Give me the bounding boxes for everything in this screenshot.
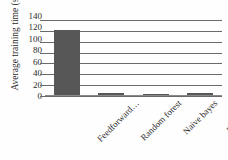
y-axis-tick-label: 40 [16,69,42,78]
y-axis-tick-label: 80 [16,46,42,55]
y-axis-tick-mark [40,96,45,97]
plot-area [45,20,222,96]
x-axis-tick-label: Random forest [139,98,184,143]
bar [54,30,80,96]
y-axis-tick-label: 100 [16,34,42,43]
bar-slot [89,20,133,96]
bar-slot [178,20,222,96]
bar-series [45,20,222,96]
bar-slot [134,20,178,96]
bar-chart: Average training time (s) 02040608010012… [0,0,228,160]
x-axis-tick-label: Feedforward… [95,98,141,144]
x-axis-line [45,95,222,96]
y-axis-tick-label: 20 [16,80,42,89]
x-axis-tick-label: Naive bayes [181,98,219,136]
y-axis-tick-label: 140 [16,12,42,21]
x-axis-tick-labels: Feedforward…Random forestNaive bayesFuzz… [45,98,222,158]
y-axis-tick-labels: 020406080100120140 [16,16,42,96]
bar-slot [45,20,89,96]
y-axis-tick-label: 120 [16,23,42,32]
y-axis-tick-label: 0 [16,92,42,101]
x-axis-tick-label: Fuzzy logic [224,98,228,135]
y-axis-tick-label: 60 [16,57,42,66]
